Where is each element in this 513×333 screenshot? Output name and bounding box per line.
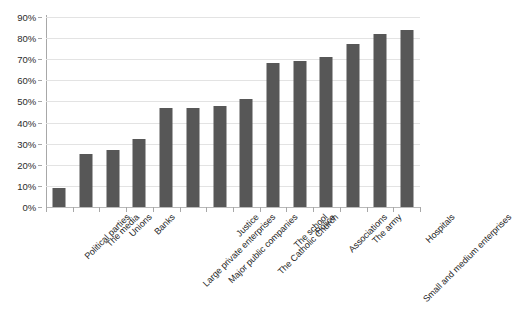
y-axis-tick-label: 30% (17, 138, 36, 149)
bar-slot (313, 17, 340, 207)
bar (213, 106, 226, 207)
bar-slot (260, 17, 287, 207)
bar (320, 57, 333, 207)
bar (347, 44, 360, 207)
y-axis-labels: 0%10%20%30%40%50%60%70%80%90% (0, 17, 42, 207)
y-axis-tick-mark (38, 207, 42, 208)
bar (373, 34, 386, 207)
x-axis-category-label: Political parties (83, 212, 132, 261)
y-axis-tick-mark (38, 17, 42, 18)
bar (293, 61, 306, 207)
bar-slot (73, 17, 100, 207)
bar-slot (46, 17, 73, 207)
bar (186, 108, 199, 207)
bar (133, 139, 146, 207)
x-axis-category-label: Hospitals (423, 212, 456, 245)
bar (106, 150, 119, 207)
y-axis-tick-label: 0% (22, 202, 36, 213)
bar-slot (367, 17, 394, 207)
bar-slot (206, 17, 233, 207)
bar (400, 30, 413, 207)
bar-slot (286, 17, 313, 207)
bar (267, 63, 280, 207)
x-axis-category-label: Banks (153, 212, 178, 237)
y-axis-tick-mark (38, 186, 42, 187)
bar (80, 154, 93, 207)
y-axis-tick-label: 70% (17, 54, 36, 65)
bar-slot (126, 17, 153, 207)
bars-layer (46, 17, 420, 207)
y-axis-tick-label: 50% (17, 96, 36, 107)
y-axis-tick-label: 40% (17, 117, 36, 128)
y-axis-tick-mark (38, 38, 42, 39)
bar-slot (180, 17, 207, 207)
y-axis-tick-mark (38, 80, 42, 81)
y-axis-tick-label: 90% (17, 12, 36, 23)
y-axis-tick-mark (38, 165, 42, 166)
bar (240, 99, 253, 207)
y-axis-tick-label: 60% (17, 75, 36, 86)
bar-slot (233, 17, 260, 207)
y-axis-tick-label: 10% (17, 180, 36, 191)
bar-slot (153, 17, 180, 207)
y-axis-tick-mark (38, 123, 42, 124)
y-axis-tick-mark (38, 59, 42, 60)
bar-slot (99, 17, 126, 207)
bar-slot (393, 17, 420, 207)
y-axis-tick-label: 20% (17, 159, 36, 170)
y-axis-tick-label: 80% (17, 33, 36, 44)
bar-slot (340, 17, 367, 207)
y-axis-tick-mark (38, 144, 42, 145)
y-axis-tick-mark (38, 101, 42, 102)
x-axis-tick-mark (420, 207, 421, 212)
bar (53, 188, 66, 207)
plot-area (46, 17, 420, 207)
bar (160, 108, 173, 207)
x-axis-labels: Political partiesThe mediaUnionsBanksLar… (46, 212, 420, 333)
